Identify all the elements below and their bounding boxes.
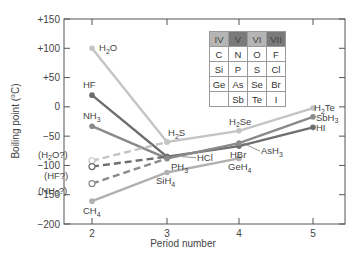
y-tick-label: +100 bbox=[37, 43, 60, 54]
group-header-vii: VII bbox=[267, 32, 286, 47]
period-5-row: Sb Te I bbox=[210, 92, 286, 107]
element-cell bbox=[210, 92, 229, 107]
data-point bbox=[89, 92, 95, 98]
element-cell: Se bbox=[248, 77, 267, 92]
y-axis-title: Boiling point (°C) bbox=[10, 83, 21, 158]
data-point bbox=[164, 139, 170, 145]
x-tick-label: 5 bbox=[310, 228, 316, 239]
period-3-row: Si P S Cl bbox=[210, 62, 286, 77]
group-header-row: IV V VI VII bbox=[210, 32, 286, 47]
leader-line bbox=[182, 157, 196, 158]
element-cell: Sb bbox=[229, 92, 248, 107]
data-point bbox=[89, 164, 95, 170]
series-label: H2​O bbox=[99, 42, 117, 55]
series-label: HBr bbox=[230, 149, 246, 160]
x-tick-label: 4 bbox=[236, 228, 242, 239]
element-cell: F bbox=[267, 47, 286, 62]
element-cell: I bbox=[267, 92, 286, 107]
element-cell: N bbox=[229, 47, 248, 62]
group-header-iv: IV bbox=[210, 32, 229, 47]
series-label: HF bbox=[83, 79, 96, 90]
y-tick-label: −200 bbox=[37, 219, 60, 230]
y-tick-label: +50 bbox=[43, 72, 60, 83]
element-cell: Cl bbox=[267, 62, 286, 77]
group-header-vi: VI bbox=[248, 32, 267, 47]
element-cell: C bbox=[210, 47, 229, 62]
element-cell: Ge bbox=[210, 77, 229, 92]
series-label: AsH3​ bbox=[261, 145, 283, 158]
data-point bbox=[89, 158, 95, 164]
data-point bbox=[164, 156, 170, 162]
element-cell: Te bbox=[248, 92, 267, 107]
y-tick-label: 0 bbox=[54, 101, 60, 112]
y-tick-label: −50 bbox=[43, 131, 60, 142]
data-point bbox=[89, 198, 95, 204]
series-label: CH4​ bbox=[83, 205, 101, 218]
group-header-v: V bbox=[229, 32, 248, 47]
element-cell: Si bbox=[210, 62, 229, 77]
element-cell: As bbox=[229, 77, 248, 92]
series-label: HCl bbox=[197, 152, 213, 163]
data-point bbox=[89, 123, 95, 129]
series-label: SiH4​ bbox=[156, 175, 175, 188]
data-point bbox=[236, 128, 242, 134]
x-tick-label: 2 bbox=[89, 228, 95, 239]
data-point bbox=[164, 170, 170, 176]
data-point bbox=[310, 125, 316, 131]
y-tick-label: +150 bbox=[37, 14, 60, 25]
series-labels: H2​OHFNH3​CH4​(H2​O?)(HF?)(NH3​?)H2​SPH3… bbox=[38, 42, 338, 217]
periodic-table-inset: IV V VI VII C N O F Si P S Cl Ge As Se B… bbox=[209, 31, 286, 107]
series-label: GeH4​ bbox=[228, 161, 252, 174]
element-cell: S bbox=[248, 62, 267, 77]
data-point bbox=[89, 45, 95, 51]
extrapolated-line bbox=[92, 142, 167, 161]
element-cell: P bbox=[229, 62, 248, 77]
data-point bbox=[236, 140, 242, 146]
series-label: (NH3​?) bbox=[38, 185, 67, 198]
boiling-point-chart: +150+100+500−50−100−150−200 2345 H2​OHFN… bbox=[0, 0, 364, 259]
data-point bbox=[310, 114, 316, 120]
period-2-row: C N O F bbox=[210, 47, 286, 62]
series-label: (H2​O?) bbox=[38, 149, 68, 162]
series-label: NH3​ bbox=[83, 110, 101, 123]
data-point bbox=[89, 181, 95, 187]
series-label: PH3​ bbox=[171, 161, 188, 174]
x-axis-title: Period number bbox=[150, 238, 216, 249]
series-label: HI bbox=[316, 122, 326, 133]
period-4-row: Ge As Se Br bbox=[210, 77, 286, 92]
element-cell: Br bbox=[267, 77, 286, 92]
series-label: H2​S bbox=[168, 127, 185, 140]
series-label: (HF?) bbox=[44, 170, 68, 181]
series-label: H2​Se bbox=[229, 116, 251, 129]
element-cell: O bbox=[248, 47, 267, 62]
